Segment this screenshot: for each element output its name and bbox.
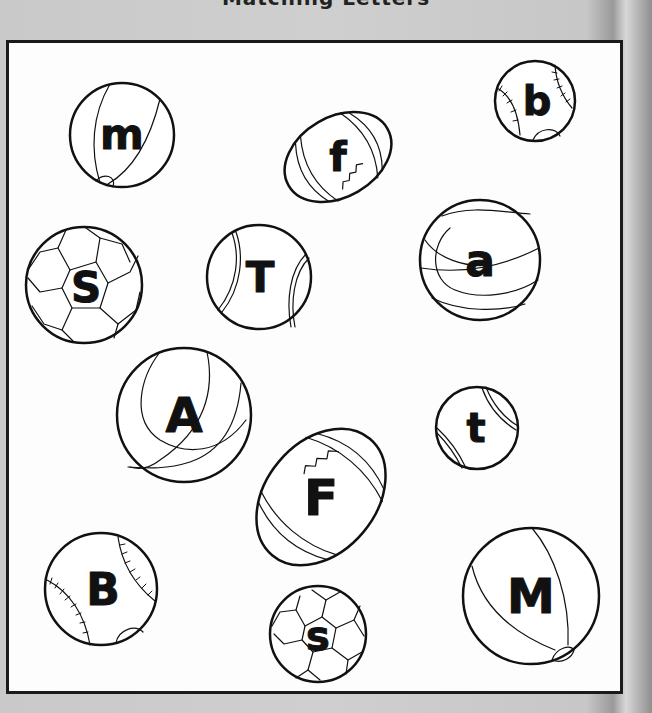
ball-m[interactable]: m: [70, 83, 174, 187]
letter-a: a: [465, 235, 495, 286]
ball-B[interactable]: B: [45, 533, 157, 645]
ball-S[interactable]: S: [26, 227, 142, 343]
letter-T: T: [246, 253, 275, 302]
ball-f[interactable]: f: [269, 94, 408, 220]
letter-A: A: [165, 387, 202, 443]
letter-m: m: [100, 110, 144, 159]
ball-F[interactable]: F: [230, 403, 412, 590]
balls-canvas: m f b S T: [0, 0, 652, 713]
ball-b[interactable]: b: [495, 61, 575, 141]
letter-t: t: [466, 405, 485, 451]
ball-A[interactable]: A: [117, 348, 251, 482]
letter-B: B: [86, 564, 120, 615]
letter-s: s: [306, 613, 330, 659]
ball-T[interactable]: T: [207, 225, 311, 329]
ball-t[interactable]: t: [436, 387, 518, 469]
letter-M: M: [507, 568, 555, 624]
ball-a[interactable]: a: [420, 200, 540, 320]
letter-b: b: [523, 78, 552, 124]
letter-f: f: [329, 134, 347, 180]
letter-S: S: [71, 263, 101, 312]
ball-M[interactable]: M: [463, 528, 599, 664]
letter-F: F: [304, 469, 338, 527]
ball-s[interactable]: s: [270, 586, 366, 682]
